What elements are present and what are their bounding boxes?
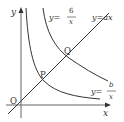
curve-b-label-numerator: b	[109, 81, 114, 89]
origin-label: O	[10, 96, 17, 106]
point-p-label: P	[40, 70, 46, 80]
function-graph-diagram: y x O P Q y= 6 x y=ax y= b x	[0, 0, 124, 122]
curve-6-label-numerator: 6	[69, 7, 74, 15]
y-axis-arrow-icon	[19, 7, 24, 13]
graph-canvas: y x O P Q y= 6 x y=ax y= b x	[0, 0, 124, 122]
point-q-label: Q	[64, 46, 71, 56]
curve-6-label-denominator: x	[69, 18, 73, 26]
curve-b-label-lhs: y=	[90, 87, 102, 96]
line-label: y=ax	[91, 13, 113, 22]
curve-6-label-lhs: y=	[48, 13, 60, 22]
x-axis-arrow-icon	[105, 103, 111, 108]
x-axis-label: x	[103, 108, 108, 118]
y-axis-label: y	[10, 7, 17, 17]
curve-b-label-denominator: x	[109, 93, 113, 101]
